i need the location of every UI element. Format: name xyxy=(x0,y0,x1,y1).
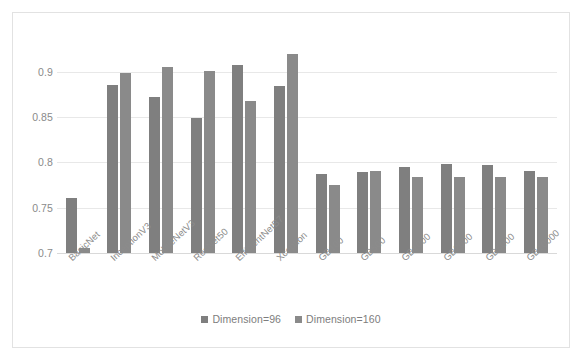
bar xyxy=(191,118,202,253)
bar-group xyxy=(224,49,266,253)
bar-group xyxy=(57,49,99,253)
y-tick-label: 0.9 xyxy=(19,66,53,78)
bar xyxy=(357,172,368,253)
bar-group xyxy=(432,49,474,253)
y-axis: 0.70.750.80.850.9 xyxy=(13,49,53,253)
chart-legend: Dimension=96Dimension=160 xyxy=(13,313,569,325)
bar xyxy=(524,171,535,253)
bar xyxy=(107,85,118,253)
x-axis: BasicNetInceptionV3MobileNetV3ResNet50Ef… xyxy=(57,253,557,313)
y-tick-label: 0.8 xyxy=(19,156,53,168)
bar xyxy=(482,165,493,253)
legend-entry[interactable]: Dimension=96 xyxy=(201,313,281,325)
bar xyxy=(232,65,243,253)
y-tick-label: 0.85 xyxy=(19,111,53,123)
y-tick-label: 0.7 xyxy=(19,247,53,259)
legend-swatch-icon xyxy=(295,316,302,323)
legend-swatch-icon xyxy=(201,316,208,323)
bar-group xyxy=(349,49,391,253)
bars-layer xyxy=(57,49,557,253)
bar-group xyxy=(515,49,557,253)
bar-group xyxy=(474,49,516,253)
bar xyxy=(162,67,173,253)
bar-group xyxy=(390,49,432,253)
bar xyxy=(316,174,327,253)
bar xyxy=(245,101,256,253)
bar xyxy=(441,164,452,253)
bar xyxy=(287,54,298,253)
bar xyxy=(120,73,131,253)
bar-group xyxy=(307,49,349,253)
chart-frame: 0.70.750.80.850.9 BasicNetInceptionV3Mob… xyxy=(12,12,570,348)
legend-entry[interactable]: Dimension=160 xyxy=(295,313,381,325)
bar xyxy=(399,167,410,253)
bar-group xyxy=(99,49,141,253)
bar xyxy=(204,71,215,253)
y-tick-label: 0.75 xyxy=(19,202,53,214)
legend-label: Dimension=160 xyxy=(306,313,381,325)
legend-label: Dimension=96 xyxy=(212,313,281,325)
